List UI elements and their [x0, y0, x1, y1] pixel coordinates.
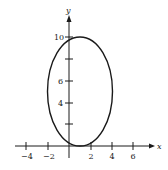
x-axis-label: x [157, 142, 162, 151]
svg-text:4: 4 [58, 99, 63, 108]
svg-text:10: 10 [54, 33, 64, 42]
svg-text:4: 4 [110, 152, 115, 161]
svg-text:−2: −2 [43, 152, 55, 161]
x-tick-labels: −4 −2 2 4 6 [21, 152, 136, 161]
y-axis-arrow-icon [67, 15, 72, 22]
ellipse-plot: x y −4 −2 2 4 6 4 6 10 [0, 0, 168, 170]
svg-text:2: 2 [89, 152, 94, 161]
svg-text:6: 6 [131, 152, 136, 161]
svg-text:−4: −4 [21, 152, 33, 161]
y-tick-labels: 4 6 10 [54, 33, 64, 108]
y-axis-label: y [65, 6, 71, 15]
x-axis-arrow-icon [149, 144, 155, 149]
ellipse-curve [48, 37, 113, 146]
svg-text:6: 6 [58, 77, 63, 86]
